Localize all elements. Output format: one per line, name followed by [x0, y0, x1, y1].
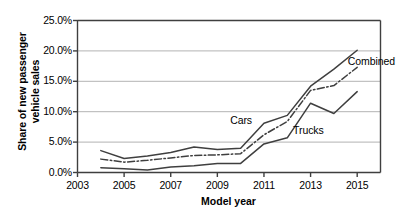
axes	[78, 20, 381, 173]
axis-ticks	[73, 21, 357, 178]
series-label-cars: Cars	[230, 114, 252, 126]
plot-area	[0, 0, 411, 217]
series-label-trucks: Trucks	[293, 124, 324, 136]
series-lines	[101, 50, 357, 170]
series-label-combined: Combined	[348, 55, 395, 67]
chart-figure: Share of new passenger vehicle sales 0.0…	[0, 0, 411, 217]
gridlines	[78, 51, 381, 142]
x-axis-title: Model year	[77, 195, 380, 207]
